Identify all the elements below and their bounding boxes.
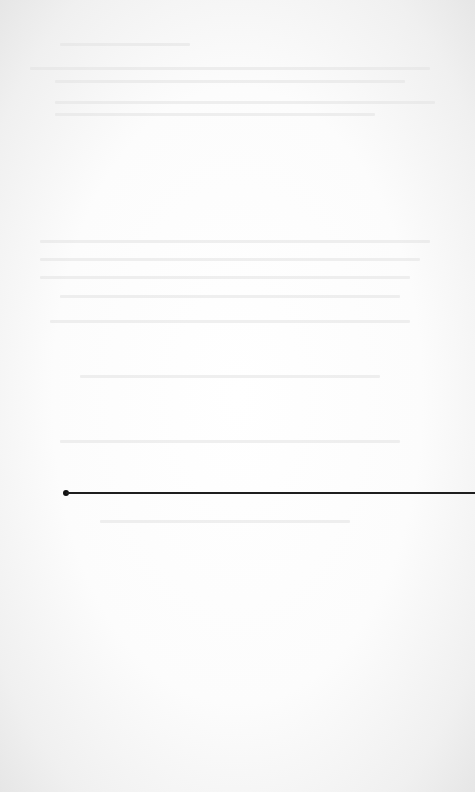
document-page [0, 0, 475, 792]
horizontal-rule [66, 492, 475, 494]
bleed-through-text [0, 0, 475, 792]
